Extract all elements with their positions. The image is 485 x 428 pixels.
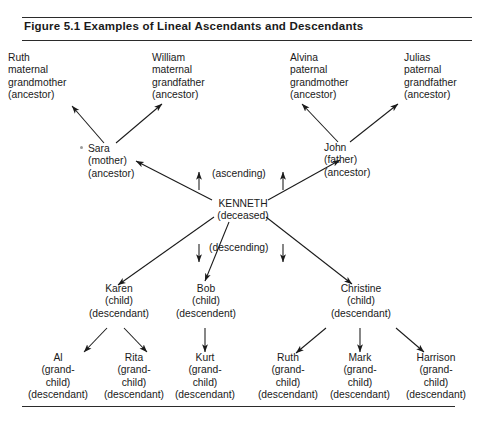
node-line3: grandmother bbox=[8, 77, 104, 89]
node-grandparent-william: William maternal grandfather (ancestor) bbox=[152, 52, 248, 102]
node-grandchild-kurt: Kurt (grand- child) (descendant) bbox=[167, 352, 243, 402]
node-line3: child) bbox=[96, 377, 172, 389]
node-line3: (descendant) bbox=[70, 308, 168, 320]
node-grandchild-al: Al (grand- child) (descendant) bbox=[20, 352, 96, 402]
node-name: Rita bbox=[96, 352, 172, 364]
node-name: Kurt bbox=[167, 352, 243, 364]
node-line2: (father) bbox=[324, 154, 388, 166]
node-name: KENNETH bbox=[190, 198, 296, 210]
node-name: John bbox=[324, 142, 388, 154]
node-line3: grandfather bbox=[404, 77, 485, 89]
node-line3: (ancestor) bbox=[88, 168, 152, 180]
node-line4: (ancestor) bbox=[404, 89, 485, 101]
node-line3: grandmother bbox=[290, 77, 386, 89]
node-parent-sara: Sara (mother) (ancestor) bbox=[88, 143, 152, 180]
node-line4: (descendant) bbox=[167, 389, 243, 401]
node-grandchild-mark: Mark (grand- child) (descendant) bbox=[322, 352, 398, 402]
node-name: Karen bbox=[70, 283, 168, 295]
node-name: Harrison bbox=[396, 352, 476, 364]
node-name: William bbox=[152, 52, 248, 64]
figure-container: Figure 5.1 Examples of Lineal Ascendants… bbox=[0, 0, 485, 428]
node-grandchild-harrison: Harrison (grand- child) (descendant) bbox=[396, 352, 476, 402]
node-grandparent-ruth: Ruth maternal grandmother (ancestor) bbox=[8, 52, 104, 102]
sara-bullet-mark bbox=[80, 146, 83, 149]
ascending-label: (ascending) bbox=[212, 168, 266, 179]
node-line3: (descendent) bbox=[157, 308, 255, 320]
node-line2: (child) bbox=[157, 295, 255, 307]
node-line2: (mother) bbox=[88, 155, 152, 167]
node-grandparent-alvina: Alvina paternal grandmother (ancestor) bbox=[290, 52, 386, 102]
descending-label: (descending) bbox=[209, 242, 269, 253]
node-line2: (grand- bbox=[96, 364, 172, 376]
node-name: Al bbox=[20, 352, 96, 364]
node-child-karen: Karen (child) (descendant) bbox=[70, 283, 168, 320]
node-line2: maternal bbox=[152, 64, 248, 76]
node-line2: (grand- bbox=[322, 364, 398, 376]
node-line2: (grand- bbox=[250, 364, 326, 376]
node-line4: (ancestor) bbox=[8, 89, 104, 101]
node-line4: (descendant) bbox=[250, 389, 326, 401]
node-subject-kenneth: KENNETH (deceased) bbox=[190, 198, 296, 223]
node-line2: (grand- bbox=[396, 364, 476, 376]
node-line2: (child) bbox=[70, 295, 168, 307]
node-line3: child) bbox=[396, 377, 476, 389]
node-name: Julias bbox=[404, 52, 485, 64]
node-grandchild-rita: Rita (grand- child) (descendant) bbox=[96, 352, 172, 402]
node-name: Mark bbox=[322, 352, 398, 364]
node-line2: (grand- bbox=[167, 364, 243, 376]
node-line4: (ancestor) bbox=[152, 89, 248, 101]
node-child-bob: Bob (child) (descendent) bbox=[157, 283, 255, 320]
node-line2: paternal bbox=[290, 64, 386, 76]
node-line3: child) bbox=[167, 377, 243, 389]
node-name: Bob bbox=[157, 283, 255, 295]
node-line4: (descendant) bbox=[396, 389, 476, 401]
node-line3: child) bbox=[20, 377, 96, 389]
node-child-christine: Christine (child) (descendant) bbox=[312, 283, 410, 320]
node-name: Christine bbox=[312, 283, 410, 295]
node-line2: (child) bbox=[312, 295, 410, 307]
node-line4: (ancestor) bbox=[290, 89, 386, 101]
figure-rule-bottom bbox=[22, 406, 455, 407]
node-parent-john: John (father) (ancestor) bbox=[324, 142, 388, 179]
node-line4: (descendant) bbox=[20, 389, 96, 401]
node-line3: grandfather bbox=[152, 77, 248, 89]
node-grandparent-julias: Julias paternal grandfather (ancestor) bbox=[404, 52, 485, 102]
node-line2: (grand- bbox=[20, 364, 96, 376]
node-line2: paternal bbox=[404, 64, 485, 76]
node-line3: child) bbox=[250, 377, 326, 389]
node-line2: (deceased) bbox=[190, 210, 296, 222]
node-line4: (descendant) bbox=[322, 389, 398, 401]
node-line3: (descendant) bbox=[312, 308, 410, 320]
node-line4: (descendant) bbox=[96, 389, 172, 401]
node-line3: (ancestor) bbox=[324, 167, 388, 179]
node-line3: child) bbox=[322, 377, 398, 389]
node-grandchild-ruth: Ruth (grand- child) (descendant) bbox=[250, 352, 326, 402]
node-name: Alvina bbox=[290, 52, 386, 64]
node-name: Ruth bbox=[250, 352, 326, 364]
node-name: Sara bbox=[88, 143, 152, 155]
node-name: Ruth bbox=[8, 52, 104, 64]
node-line2: maternal bbox=[8, 64, 104, 76]
